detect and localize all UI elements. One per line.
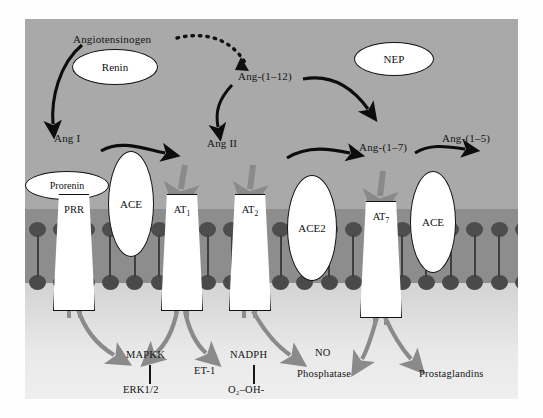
lipid-head-lower	[272, 275, 289, 290]
receptor-prr[interactable]: PRR	[53, 194, 95, 311]
enzyme-ace2-label: ACE2	[298, 222, 326, 234]
cytoplasm-zone	[25, 283, 518, 399]
label-ang-1-12: Ang-(1–12)	[238, 70, 292, 82]
lipid-tail	[352, 235, 354, 277]
enzyme-ace-right-label: ACE	[422, 216, 444, 228]
enzyme-prorenin-label: Prorenin	[50, 180, 84, 191]
lipid-tail	[401, 235, 403, 277]
enzyme-ace-left-label: ACE	[120, 198, 142, 210]
label-mapkk: MAPKK	[126, 349, 165, 360]
enzyme-renin[interactable]: Renin	[72, 49, 158, 85]
lipid-head-lower	[29, 275, 46, 290]
label-prostaglandins: Prostaglandins	[419, 368, 484, 379]
label-ang-ii: Ang II	[207, 137, 237, 149]
connector-nadph-superoxide	[253, 365, 255, 384]
label-nadph: NADPH	[230, 349, 267, 360]
label-angiotensinogen: Angiotensinogen	[73, 33, 151, 45]
receptor-at2-label: AT2	[242, 204, 259, 218]
receptor-prr-label: PRR	[64, 204, 84, 215]
lipid-head-lower	[321, 275, 338, 290]
enzyme-ace-right[interactable]: ACE	[410, 171, 456, 273]
lipid-head-lower	[102, 275, 119, 290]
label-phosphatase: Phosphatase	[297, 368, 351, 379]
lipid-head-lower	[491, 275, 508, 290]
receptor-at7[interactable]: AT7	[360, 201, 402, 318]
label-superoxide: O₂–OH-	[228, 384, 264, 395]
receptor-at7-label: AT7	[373, 211, 390, 225]
receptor-at2[interactable]: AT2	[229, 194, 271, 311]
label-ang-1-5: Ang-(1–5)	[442, 132, 490, 144]
label-et1: ET-1	[194, 365, 215, 376]
connector-mapkk-erk	[149, 365, 151, 384]
lipid-tail	[207, 235, 209, 277]
receptor-at1-label: AT1	[174, 204, 191, 218]
label-ang-i: Ang I	[54, 132, 80, 144]
lipid-tail	[498, 235, 500, 277]
label-no: NO	[315, 347, 331, 358]
enzyme-renin-label: Renin	[102, 61, 128, 73]
diagram-canvas: Angiotensinogen Ang-(1–12) Ang I Ang II …	[0, 0, 543, 418]
label-ang-1-7: Ang-(1–7)	[359, 141, 407, 153]
enzyme-ace-left[interactable]: ACE	[108, 151, 154, 257]
enzyme-ace2[interactable]: ACE2	[287, 175, 337, 281]
pathway-panel: Angiotensinogen Ang-(1–12) Ang I Ang II …	[25, 19, 518, 399]
lipid-head-lower	[345, 275, 362, 290]
enzyme-nep-label: NEP	[384, 53, 405, 65]
lipid-tail	[280, 235, 282, 277]
lipid-tail	[37, 235, 39, 277]
lipid-head-lower	[418, 275, 435, 290]
lipid-tail	[158, 235, 160, 277]
lipid-head-lower	[442, 275, 459, 290]
lipid-tail	[474, 235, 476, 277]
enzyme-nep[interactable]: NEP	[354, 42, 434, 76]
receptor-at1[interactable]: AT1	[161, 194, 203, 311]
label-erk12: ERK1/2	[123, 384, 159, 395]
lipid-tail	[109, 235, 111, 277]
